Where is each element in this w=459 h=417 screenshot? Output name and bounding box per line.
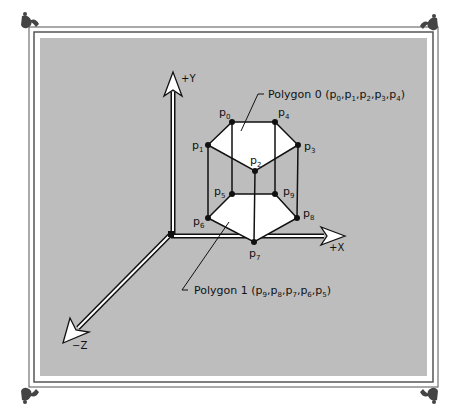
- corner-ornament-bottom-left: [21, 388, 39, 404]
- z-axis-label: −Z: [72, 340, 87, 351]
- corner-ornament-bottom-right: [420, 388, 438, 404]
- x-axis-label: +X: [329, 242, 344, 253]
- corner-ornament-top-left: [21, 12, 39, 28]
- corner-ornament-top-right: [420, 14, 438, 30]
- origin-marker: [168, 231, 174, 237]
- y-axis-label: +Y: [181, 73, 196, 84]
- polygon-prism-diagram: p0 p1 p2 p3 p4 p5 p6 p7 p8 p9 +Y +X −Z P…: [0, 0, 459, 417]
